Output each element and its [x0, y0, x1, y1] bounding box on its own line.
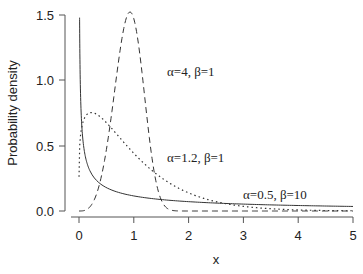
x-tick-4: 4 — [295, 228, 302, 243]
y-tick-0: 0.0 — [36, 204, 54, 219]
y-ticks: 0.0 0.5 1.0 1.5 — [36, 8, 65, 219]
y-tick-1.5: 1.5 — [36, 8, 54, 23]
series-alpha0.5-beta10 — [80, 18, 353, 207]
density-chart: 0.0 0.5 1.0 1.5 Probability density 0 1 … — [0, 0, 363, 274]
x-tick-5: 5 — [349, 228, 356, 243]
x-tick-1: 1 — [130, 228, 137, 243]
series-alpha4-beta1 — [79, 12, 353, 211]
x-ticks: 0 1 2 3 4 5 — [75, 217, 356, 243]
annotation-alpha4-beta1: α=4, β=1 — [167, 64, 215, 79]
x-axis-label: x — [213, 252, 220, 267]
y-tick-1.0: 1.0 — [36, 73, 54, 88]
x-tick-0: 0 — [75, 228, 82, 243]
x-tick-2: 2 — [185, 228, 192, 243]
annotation-alpha1.2-beta1: α=1.2, β=1 — [167, 150, 224, 165]
y-axis-label: Probability density — [5, 60, 20, 166]
annotation-alpha0.5-beta10: α=0.5, β=10 — [243, 187, 307, 202]
y-tick-0.5: 0.5 — [36, 139, 54, 154]
x-tick-3: 3 — [240, 228, 247, 243]
